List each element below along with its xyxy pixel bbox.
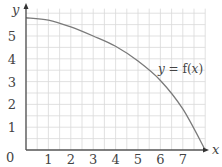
x-tick-label: 5 xyxy=(134,152,142,167)
y-axis-label: y xyxy=(11,2,20,17)
x-tick-labels: 1234567 xyxy=(44,152,187,167)
axes xyxy=(24,3,210,153)
x-tick-label: 6 xyxy=(156,152,164,167)
x-axis-arrow-icon xyxy=(203,148,209,153)
x-tick-label: 3 xyxy=(89,152,97,167)
curve-label: y = f(x) xyxy=(157,62,203,76)
y-tick-label: 4 xyxy=(8,52,16,67)
origin-label: 0 xyxy=(6,150,14,165)
y-tick-label: 1 xyxy=(8,120,16,135)
y-tick-label: 5 xyxy=(8,29,16,44)
x-tick-label: 7 xyxy=(179,152,187,167)
function-graph: 1234567 12345 0 x y y = f(x) xyxy=(0,0,222,167)
grid-lines xyxy=(26,9,205,150)
y-tick-labels: 12345 xyxy=(8,29,16,135)
curve-label-close: ) xyxy=(198,62,203,76)
x-tick-label: 2 xyxy=(67,152,75,167)
x-axis-label: x xyxy=(212,142,220,157)
curve-label-eq: = f( xyxy=(165,62,192,76)
y-axis-arrow-icon xyxy=(24,3,29,9)
y-tick-label: 2 xyxy=(8,97,16,112)
x-tick-label: 4 xyxy=(111,152,119,167)
y-tick-label: 3 xyxy=(8,75,16,90)
x-tick-label: 1 xyxy=(44,152,52,167)
